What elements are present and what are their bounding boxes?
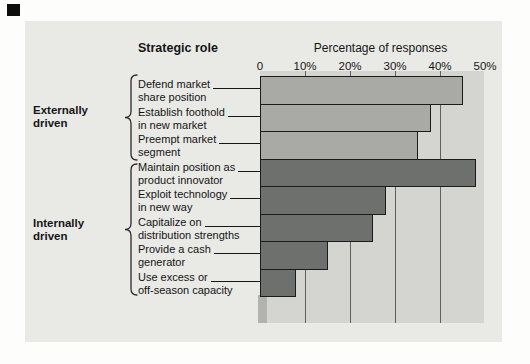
- leader-line: [211, 281, 260, 282]
- plot-area: [260, 71, 484, 323]
- bar-label-line2: distribution strengths: [138, 229, 260, 242]
- bar-label-line2: product innovator: [138, 174, 260, 187]
- bar-externally-driven-0: [260, 76, 463, 105]
- bar-internally-driven-6: [260, 241, 328, 270]
- y-axis-shadow-stub: [258, 295, 267, 323]
- column-header: Strategic role: [138, 41, 218, 55]
- bars-layer: [260, 71, 484, 323]
- group-label-internally-driven: Internally driven: [33, 217, 129, 243]
- bar-label-line2: in new way: [138, 201, 260, 214]
- leader-line: [238, 171, 260, 172]
- bar-label-7: Use excess oroff-season capacity: [138, 269, 260, 297]
- bar-externally-driven-1: [260, 104, 431, 133]
- bar-label-3: Maintain position asproduct innovator: [138, 159, 260, 187]
- leader-line: [219, 143, 260, 144]
- gridline: [440, 71, 441, 323]
- bar-label-line2: share position: [138, 91, 260, 104]
- bar-internally-driven-4: [260, 186, 386, 215]
- bar-label-line1: Exploit technology: [138, 188, 227, 201]
- bar-label-line2: off-season capacity: [138, 284, 260, 297]
- leader-line: [228, 116, 260, 117]
- bar-label-6: Provide a cashgenerator: [138, 241, 260, 269]
- bar-label-line1: Establish foothold: [138, 106, 225, 119]
- leader-line: [230, 198, 260, 199]
- bar-label-line1: Maintain position as: [138, 161, 235, 174]
- bar-internally-driven-7: [260, 269, 296, 298]
- bar-label-1: Establish footholdin new market: [138, 104, 260, 132]
- category-labels: Defend marketshare positionEstablish foo…: [138, 76, 260, 296]
- bar-label-0: Defend marketshare position: [138, 76, 260, 104]
- bar-label-line1: Preempt market: [138, 133, 216, 146]
- bar-label-line2: generator: [138, 256, 260, 269]
- figure-panel: Strategic role Percentage of responses 0…: [25, 21, 502, 342]
- leader-line: [205, 226, 260, 227]
- y-axis-line: [260, 76, 261, 296]
- leader-line: [213, 88, 260, 89]
- group-label-externally-driven: Externally driven: [33, 104, 129, 130]
- leader-line: [214, 253, 260, 254]
- bar-internally-driven-3: [260, 159, 476, 188]
- corner-mark-icon: [7, 4, 20, 16]
- bar-label-4: Exploit technologyin new way: [138, 186, 260, 214]
- bar-label-line1: Provide a cash: [138, 243, 211, 256]
- bar-label-line1: Defend market: [138, 78, 210, 91]
- bar-label-line2: in new market: [138, 119, 260, 132]
- bar-externally-driven-2: [260, 131, 418, 160]
- bar-label-2: Preempt marketsegment: [138, 131, 260, 159]
- bar-label-line1: Use excess or: [138, 271, 208, 284]
- x-axis-title: Percentage of responses: [268, 41, 493, 55]
- bar-label-5: Capitalize ondistribution strengths: [138, 214, 260, 242]
- bar-internally-driven-5: [260, 214, 373, 243]
- bar-label-line2: segment: [138, 146, 260, 159]
- bar-label-line1: Capitalize on: [138, 216, 202, 229]
